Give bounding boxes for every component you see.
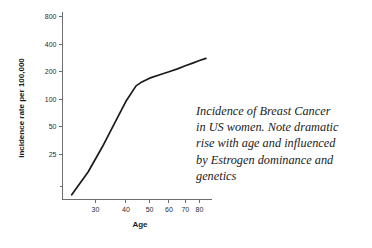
caption-line: Incidence of Breast Cancer [196, 103, 368, 119]
y-axis-title: Incidence rate per 100,000 [17, 58, 26, 158]
x-tick-label: 40 [122, 206, 130, 213]
chart-plot-area: 2550100200400800 304050607080 Age Incide… [0, 0, 215, 248]
y-axis-ticks: 2550100200400800 [45, 13, 63, 187]
x-tick-label: 30 [92, 206, 100, 213]
x-tick-label: 50 [146, 206, 154, 213]
chart-caption: Incidence of Breast Cancer in US women. … [196, 103, 368, 184]
y-tick-label: 200 [45, 68, 57, 75]
y-tick-label: 25 [49, 151, 57, 158]
caption-line: in US women. Note dramatic [196, 119, 368, 135]
y-tick-label: 50 [49, 123, 57, 130]
x-tick-label: 70 [181, 206, 189, 213]
chart-page: 2550100200400800 304050607080 Age Incide… [0, 0, 372, 248]
caption-line: by Estrogen dominance and [196, 152, 368, 168]
axes-group [63, 12, 213, 200]
caption-line: rise with age and influenced [196, 135, 368, 151]
x-axis-ticks: 304050607080 [92, 200, 204, 213]
x-tick-label: 80 [196, 206, 204, 213]
x-tick-label: 60 [165, 206, 173, 213]
data-series-group [72, 58, 206, 194]
y-tick-label: 100 [45, 96, 57, 103]
chart-figure: 2550100200400800 304050607080 Age Incide… [0, 0, 215, 248]
y-tick-label: 400 [45, 41, 57, 48]
y-tick-label: 800 [45, 13, 57, 20]
x-axis-title: Age [132, 220, 148, 229]
caption-line: genetics [196, 168, 368, 184]
incidence-curve [72, 58, 206, 194]
